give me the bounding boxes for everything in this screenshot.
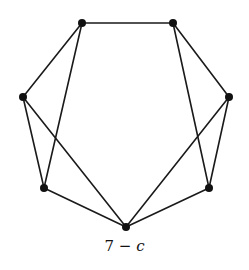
graph-diagram bbox=[0, 0, 249, 270]
node-left bbox=[19, 93, 27, 101]
caption-dash: − bbox=[119, 237, 132, 255]
node-top-right bbox=[169, 19, 177, 27]
figure-caption: 7 − c bbox=[0, 237, 249, 255]
edge-lower-right-bottom bbox=[126, 188, 209, 227]
edge-right-bottom bbox=[126, 97, 229, 227]
node-lower-right bbox=[205, 184, 213, 192]
node-right bbox=[225, 93, 233, 101]
caption-variable: c bbox=[136, 237, 144, 255]
caption-number: 7 bbox=[104, 237, 114, 255]
edge-lower-left-bottom bbox=[44, 188, 126, 227]
graph-edges bbox=[23, 23, 229, 227]
graph-nodes bbox=[19, 19, 233, 231]
node-lower-left bbox=[40, 184, 48, 192]
node-top-left bbox=[78, 19, 86, 27]
node-bottom bbox=[122, 223, 130, 231]
